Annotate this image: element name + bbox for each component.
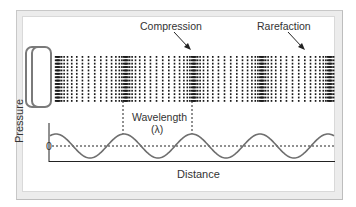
wavelength-symbol: (λ): [151, 124, 163, 135]
rarefaction-arrow: [288, 32, 305, 50]
air-particle-field: [55, 56, 335, 102]
compression-arrow: [174, 32, 191, 50]
rarefaction-label: Rarefaction: [257, 21, 311, 32]
x-axis-label: Distance: [177, 169, 220, 180]
wavelength-label: Wavelength: [132, 112, 187, 123]
zero-label: 0: [46, 141, 52, 152]
compression-label: Compression: [140, 21, 202, 32]
sound-wave-diagram: Compression Rarefaction Wavelength (λ) 0…: [0, 0, 356, 207]
pressure-graph: [49, 123, 335, 162]
y-axis-label: Pressure: [14, 99, 25, 143]
speaker-icon: [26, 47, 51, 107]
